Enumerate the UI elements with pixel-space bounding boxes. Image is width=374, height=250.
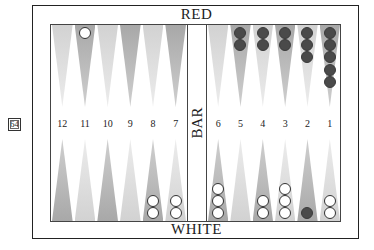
point-column[interactable]: 2 <box>296 25 318 221</box>
point-triangle-bottom[interactable] <box>52 139 73 221</box>
point-column[interactable]: 6 <box>207 25 229 221</box>
point-column[interactable]: 8 <box>142 25 165 221</box>
point-number: 2 <box>296 118 318 129</box>
outer-board: 121110987 <box>51 25 187 221</box>
point-triangle-top[interactable] <box>120 25 141 107</box>
home-board: 654321 <box>207 25 341 221</box>
point-column[interactable]: 1 <box>319 25 341 221</box>
player-label-white: WHITE <box>32 221 361 238</box>
point-triangle-top[interactable] <box>52 25 73 107</box>
red-checker[interactable] <box>324 27 336 39</box>
point-number: 1 <box>319 118 341 129</box>
point-column[interactable]: 12 <box>51 25 74 221</box>
point-column[interactable]: 7 <box>164 25 187 221</box>
point-column[interactable]: 9 <box>119 25 142 221</box>
point-triangle-bottom[interactable] <box>97 139 118 221</box>
white-checker[interactable] <box>324 207 336 219</box>
point-column[interactable]: 5 <box>229 25 251 221</box>
red-checker[interactable] <box>324 76 336 88</box>
point-column[interactable]: 4 <box>252 25 274 221</box>
point-triangle-top[interactable] <box>208 25 228 107</box>
point-triangle-bottom[interactable] <box>120 139 141 221</box>
bar-label: BAR <box>189 108 206 139</box>
white-checker[interactable] <box>324 195 336 207</box>
point-triangle-bottom[interactable] <box>75 139 96 221</box>
red-checker[interactable] <box>324 39 336 51</box>
point-column[interactable]: 10 <box>96 25 119 221</box>
backgammon-board: 121110987 BAR 654321 <box>50 24 341 222</box>
point-number: 10 <box>96 118 119 129</box>
red-checker[interactable] <box>324 64 336 76</box>
white-checker[interactable] <box>170 207 182 219</box>
white-checker[interactable] <box>147 195 159 207</box>
white-checker[interactable] <box>147 207 159 219</box>
red-checker[interactable] <box>257 39 269 51</box>
point-triangle-top[interactable] <box>165 25 186 107</box>
white-checker[interactable] <box>212 195 224 207</box>
point-triangle-top[interactable] <box>97 25 118 107</box>
bar[interactable]: BAR <box>187 25 207 221</box>
white-checker[interactable] <box>279 183 291 195</box>
point-number: 12 <box>51 118 74 129</box>
white-checker[interactable] <box>257 207 269 219</box>
point-number: 5 <box>229 118 251 129</box>
point-number: 4 <box>252 118 274 129</box>
white-checker[interactable] <box>257 195 269 207</box>
point-triangle-top[interactable] <box>143 25 164 107</box>
white-checker[interactable] <box>79 27 91 39</box>
white-checker[interactable] <box>279 195 291 207</box>
point-number: 9 <box>119 118 142 129</box>
point-number: 3 <box>274 118 296 129</box>
white-checker[interactable] <box>170 195 182 207</box>
point-column[interactable]: 11 <box>74 25 97 221</box>
point-number: 6 <box>207 118 229 129</box>
point-number: 8 <box>142 118 165 129</box>
point-number: 7 <box>164 118 187 129</box>
point-triangle-bottom[interactable] <box>230 139 250 221</box>
point-column[interactable]: 3 <box>274 25 296 221</box>
white-checker[interactable] <box>212 183 224 195</box>
point-number: 11 <box>74 118 97 129</box>
player-label-red: RED <box>32 6 361 23</box>
doubling-cube[interactable]: 64 <box>8 118 21 131</box>
red-checker[interactable] <box>257 27 269 39</box>
